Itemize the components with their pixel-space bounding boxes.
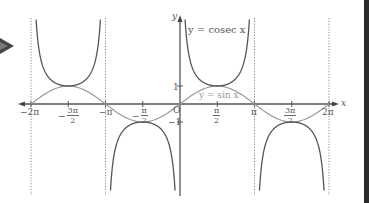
x-tick-pi: π	[251, 108, 257, 117]
x-tick-neg-3pi-over-2: − 3π 2	[58, 107, 79, 125]
x-tick-pi-over-2: π 2	[213, 107, 220, 125]
page-edge-bar	[364, 0, 369, 203]
y-tick-neg1: −1	[168, 118, 181, 127]
cosec-curve-label: y = cosec x	[188, 24, 245, 35]
y-tick-1: 1	[173, 83, 179, 92]
graph-figure: y x O 1 −1 −2π − 3π 2 −π − π 2 π 2 π 3π …	[0, 0, 369, 203]
x-tick-3pi-over-2: 3π 2	[284, 107, 296, 125]
origin-label: O	[173, 106, 180, 115]
x-tick-neg-pi-over-2: − π 2	[132, 107, 148, 125]
y-axis-label: y	[172, 12, 177, 21]
graph-canvas	[0, 0, 369, 203]
x-tick-2pi: 2π	[322, 108, 334, 117]
x-axis-label: x	[341, 99, 346, 108]
x-tick-neg-2pi: −2π	[20, 108, 39, 117]
sin-curve-label: y = sin x	[199, 90, 239, 100]
x-tick-neg-pi: −π	[99, 108, 112, 117]
